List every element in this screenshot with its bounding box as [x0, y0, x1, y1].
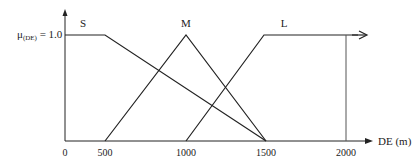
- x-tick-2000: 2000: [336, 147, 356, 158]
- series-label-s: S: [80, 17, 86, 29]
- y-axis-label: μ(DE) = 1.0: [17, 28, 63, 42]
- y-label-sub: (DE): [23, 34, 38, 42]
- y-label-eq: = 1.0: [37, 28, 63, 40]
- x-axis-arrow-icon: [365, 138, 373, 144]
- series-label-l: L: [281, 17, 288, 29]
- x-tick-0: 0: [63, 147, 68, 158]
- x-tick-1500: 1500: [256, 147, 276, 158]
- series-l-line: [186, 35, 358, 141]
- x-tick-500: 500: [98, 147, 113, 158]
- y-axis-arrow-icon: [63, 9, 68, 16]
- x-axis-label: DE (m): [378, 135, 412, 148]
- membership-function-chart: S M L μ(DE) = 1.0 0 500 1000 1500 2000 D…: [0, 0, 420, 164]
- series-s-line: [65, 35, 266, 141]
- series-label-m: M: [181, 17, 191, 29]
- x-tick-1000: 1000: [176, 147, 196, 158]
